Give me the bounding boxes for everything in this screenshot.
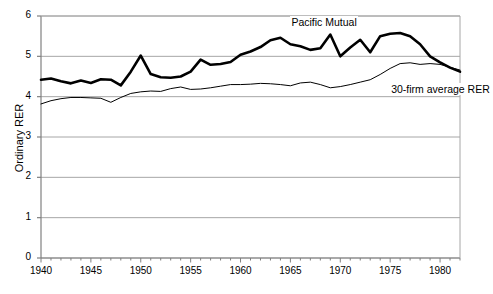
x-tick-label-1945: 1945 [71, 265, 111, 276]
chart-plot-svg [0, 0, 493, 294]
x-tick-label-1965: 1965 [270, 265, 310, 276]
x-tick-label-1940: 1940 [21, 265, 61, 276]
chart-container: Ordinary RER 0123456 1940194519501955196… [0, 0, 493, 294]
series-annotation-0: Pacific Mutual [290, 16, 357, 28]
x-tick-label-1950: 1950 [121, 265, 161, 276]
y-tick-label-4: 4 [9, 90, 31, 101]
y-tick-label-1: 1 [9, 211, 31, 222]
series-annotation-1: 30-firm average RER [390, 83, 491, 95]
y-tick-label-6: 6 [9, 9, 31, 20]
x-tick-label-1980: 1980 [420, 265, 460, 276]
y-tick-label-2: 2 [9, 170, 31, 181]
y-tick-label-3: 3 [9, 130, 31, 141]
x-tick-label-1955: 1955 [171, 265, 211, 276]
x-tick-label-1970: 1970 [320, 265, 360, 276]
series-line-0 [41, 33, 460, 85]
x-tick-label-1960: 1960 [221, 265, 261, 276]
y-tick-label-5: 5 [9, 49, 31, 60]
x-tick-label-1975: 1975 [370, 265, 410, 276]
y-tick-label-0: 0 [9, 251, 31, 262]
